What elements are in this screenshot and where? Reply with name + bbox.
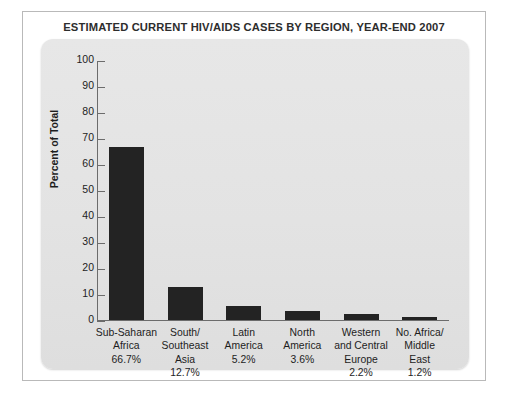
y-tick-label: 0 — [68, 313, 94, 325]
x-axis-line — [97, 320, 449, 321]
y-tick-label: 100 — [68, 53, 94, 65]
x-label-line: No. Africa/ — [377, 326, 463, 339]
x-label-line: 12.7% — [142, 366, 228, 379]
y-tick-mark — [98, 217, 105, 218]
bar-3 — [285, 311, 320, 320]
y-tick-mark — [98, 295, 105, 296]
y-tick-label: 70 — [68, 131, 94, 143]
y-tick-mark — [98, 269, 105, 270]
y-tick-mark — [98, 243, 105, 244]
y-tick-label: 20 — [68, 261, 94, 273]
y-tick-mark — [98, 321, 105, 322]
y-tick-label: 90 — [68, 79, 94, 91]
y-tick-label: 10 — [68, 287, 94, 299]
x-label-5: No. Africa/MiddleEast1.2% — [377, 326, 463, 380]
chart-card: ESTIMATED CURRENT HIV/AIDS CASES BY REGI… — [22, 11, 486, 381]
bar-5 — [402, 317, 437, 320]
bar-2 — [226, 306, 261, 320]
y-tick-mark — [98, 139, 105, 140]
chart-plot-panel: Percent of Total 1009080706050403020100 … — [41, 39, 469, 369]
y-tick-mark — [98, 113, 105, 114]
x-label-line: 1.2% — [377, 366, 463, 379]
y-tick-mark — [98, 61, 105, 62]
y-axis-line — [97, 61, 98, 322]
bar-1 — [168, 287, 203, 320]
y-axis-title: Percent of Total — [48, 79, 60, 219]
chart-title: ESTIMATED CURRENT HIV/AIDS CASES BY REGI… — [23, 21, 485, 33]
y-tick-mark — [98, 87, 105, 88]
plot-area: 1009080706050403020100 — [97, 61, 449, 321]
x-label-line: East — [377, 353, 463, 366]
y-tick-mark — [98, 165, 105, 166]
y-tick-label: 50 — [68, 183, 94, 195]
y-tick-mark — [98, 191, 105, 192]
x-label-line: Middle — [377, 339, 463, 352]
y-tick-label: 80 — [68, 105, 94, 117]
bar-4 — [344, 314, 379, 320]
bar-0 — [109, 147, 144, 320]
y-tick-label: 60 — [68, 157, 94, 169]
y-tick-label: 30 — [68, 235, 94, 247]
y-tick-label: 40 — [68, 209, 94, 221]
